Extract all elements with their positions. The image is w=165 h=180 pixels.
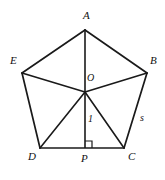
edge-DE (22, 73, 40, 148)
vertex-label-A: A (83, 10, 90, 21)
center-label-O: O (87, 73, 94, 83)
side-length-label: s (140, 113, 144, 123)
vertex-label-D: D (28, 151, 36, 162)
vertex-label-E: E (10, 55, 17, 66)
vertex-label-C: C (128, 151, 135, 162)
geometry-figure: A B C D E O P 1 s (0, 0, 165, 180)
edge-BC (124, 73, 147, 148)
radius-OB (85, 73, 147, 92)
foot-label-P: P (81, 153, 88, 164)
edge-AB (85, 30, 147, 73)
radius-OE (22, 73, 85, 92)
right-angle-marker-icon (85, 141, 92, 148)
apothem-length-label: 1 (88, 114, 93, 124)
edge-EA (22, 30, 85, 73)
radius-OD (40, 92, 85, 148)
vertex-label-B: B (150, 55, 157, 66)
